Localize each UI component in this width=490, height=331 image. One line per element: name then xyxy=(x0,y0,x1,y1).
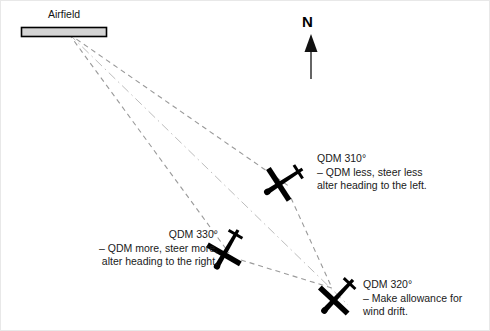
callout-qdm-320: QDM 320° – Make allowance for wind drift… xyxy=(363,278,462,319)
north-label: N xyxy=(302,13,313,30)
callout-qdm-330-line2: – QDM more, steer more, xyxy=(99,242,218,256)
callout-qdm-320-heading: QDM 320° xyxy=(363,278,462,292)
connector-310-to-320 xyxy=(291,198,332,288)
airfield-label: Airfield xyxy=(48,8,80,21)
callout-qdm-310: QDM 310° – QDM less, steer less alter he… xyxy=(317,152,427,193)
callout-qdm-310-line3: alter heading to the left. xyxy=(317,179,427,193)
connector-lines xyxy=(241,198,332,288)
callout-qdm-330-heading: QDM 330° xyxy=(99,228,218,242)
callout-qdm-310-line2: – QDM less, steer less xyxy=(317,166,427,180)
callout-qdm-310-heading: QDM 310° xyxy=(317,152,427,166)
bearing-line-right xyxy=(69,34,290,187)
callout-qdm-330: QDM 330° – QDM more, steer more, alter h… xyxy=(99,228,218,269)
diagram-canvas: Airfield N QDM 310° – QDM less, steer le… xyxy=(0,0,490,331)
aircraft-320 xyxy=(308,267,367,326)
airfield-rectangle xyxy=(22,28,107,37)
callout-qdm-320-line3: wind drift. xyxy=(363,305,462,319)
aircraft-310 xyxy=(254,153,313,209)
connector-330-to-320 xyxy=(241,260,332,288)
north-arrow-head xyxy=(305,34,318,52)
callout-qdm-330-line3: alter heading to the right. xyxy=(99,255,218,269)
callout-qdm-320-line2: – Make allowance for xyxy=(363,292,462,306)
bearing-line-left xyxy=(69,34,229,253)
north-arrow xyxy=(305,34,318,79)
